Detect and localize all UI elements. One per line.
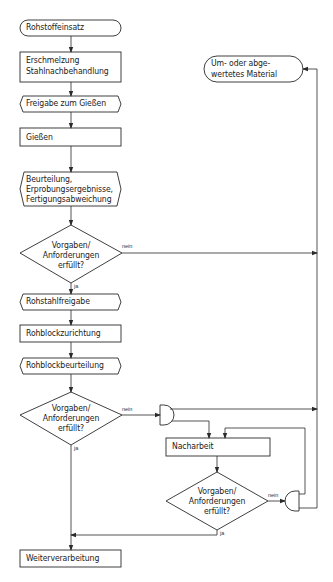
node-beurteilung-line1: Beurteilung, bbox=[26, 174, 72, 185]
junction-2-shape bbox=[285, 491, 299, 511]
decision-3-line1: Vorgaben/ bbox=[198, 486, 236, 497]
edge-label-ja-2: ja bbox=[74, 445, 78, 451]
node-rohblockbeurteilung-label: Rohblockbeurteilung bbox=[26, 360, 104, 371]
edge-label-nein-2: nein bbox=[122, 406, 132, 412]
node-giessen-label: Gießen bbox=[26, 132, 53, 143]
node-nacharbeit-label: Nacharbeit bbox=[172, 441, 213, 452]
decision-2-line1: Vorgaben/ bbox=[52, 403, 90, 414]
decision-1-line2: Anforderungen bbox=[43, 250, 100, 261]
edge-label-ja-3: ja bbox=[220, 530, 224, 536]
node-weiterverarbeitung-label: Weiterverarbeitung bbox=[26, 553, 99, 564]
junction-1-shape bbox=[160, 405, 174, 425]
flowchart-graphics bbox=[0, 0, 333, 582]
node-beurteilung-line3: Fertigungsabweichung bbox=[26, 194, 111, 205]
node-um-abgewertet-line1: Um- oder abge- bbox=[211, 58, 270, 69]
node-beurteilung-line2: Erprobungsergebnisse, bbox=[26, 184, 113, 195]
node-erschmelzung-line1: Erschmelzung bbox=[26, 55, 79, 66]
node-freigabe-giessen-label: Freigabe zum Gießen bbox=[26, 98, 106, 109]
flowchart-canvas: Rohstoffeinsatz Erschmelzung Stahlnachbe… bbox=[0, 0, 333, 582]
edge-label-nein-3: nein bbox=[268, 492, 278, 498]
decision-3-line3: erfüllt? bbox=[204, 506, 230, 517]
decision-1-line3: erfüllt? bbox=[58, 260, 84, 271]
edge-label-nein-1: nein bbox=[122, 243, 132, 249]
decision-1-line1: Vorgaben/ bbox=[52, 240, 90, 251]
edge-d3-n10 bbox=[71, 530, 217, 535]
decision-2-line2: Anforderungen bbox=[43, 413, 100, 424]
node-erschmelzung-line2: Stahlnachbehandlung bbox=[26, 66, 109, 77]
node-rohstoffeinsatz-label: Rohstoffeinsatz bbox=[26, 22, 84, 33]
node-rohblockzurichtung-label: Rohblockzurichtung bbox=[26, 328, 101, 339]
decision-3-line2: Anforderungen bbox=[189, 496, 246, 507]
node-um-abgewertet-line2: wertetes Material bbox=[211, 69, 277, 80]
edge-j1-n9 bbox=[172, 421, 209, 438]
decision-2-line3: erfüllt? bbox=[58, 423, 84, 434]
edge-label-ja-1: ja bbox=[74, 283, 78, 289]
node-rohstahlfreigabe-label: Rohstahlfreigabe bbox=[26, 296, 90, 307]
